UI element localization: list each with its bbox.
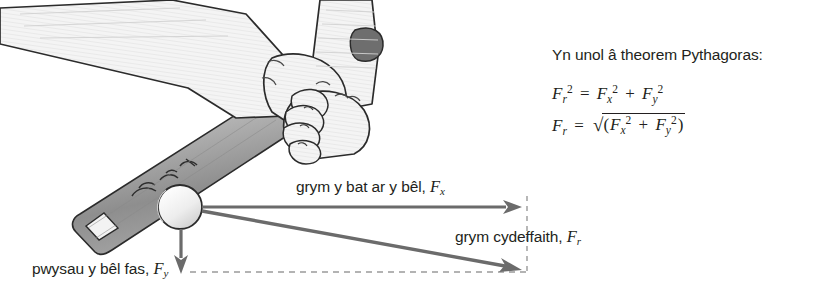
eq1-plus: +	[624, 84, 636, 103]
pythagoras-heading: Yn unol â theorem Pythagoras:	[552, 46, 763, 63]
label-fx-symbol: F	[430, 177, 440, 196]
eq2-term2-sup: 2	[671, 114, 677, 126]
eq2-open-paren: (	[602, 115, 610, 134]
label-fx-subscript: x	[440, 185, 445, 197]
label-fy-symbol: F	[153, 259, 163, 278]
label-fx-text: grym y bat ar y bêl,	[296, 178, 426, 195]
pythagoras-equation-1: Fr2 = Fx2 + Fy2	[552, 83, 663, 105]
eq2-close-paren: )	[677, 115, 685, 134]
eq1-term2-symbol: F	[642, 84, 652, 103]
arrow-weight-of-ball	[174, 229, 188, 274]
label-fr-symbol: F	[567, 227, 577, 246]
label-weight-of-ball: pwysau y bêl fas, Fy	[32, 260, 168, 279]
eq1-lhs-symbol: F	[552, 84, 562, 103]
eq2-equals: =	[573, 116, 585, 135]
eq1-term1-symbol: F	[597, 84, 607, 103]
label-fr-text: grym cydeffaith,	[455, 228, 563, 245]
label-resultant-force: grym cydeffaith, Fr	[455, 228, 581, 247]
eq2-term1-symbol: F	[610, 115, 620, 134]
pythagoras-equation-2: Fr = √(Fx2 + Fy2)	[552, 114, 685, 137]
force-diagram-figure: grym y bat ar y bêl, Fx grym cydeffaith,…	[0, 0, 826, 294]
eq2-plus: +	[638, 115, 650, 134]
eq1-term2-sup: 2	[658, 83, 664, 95]
label-fr-subscript: r	[577, 235, 581, 247]
square-root-group: √(Fx2 + Fy2)	[591, 114, 685, 137]
eq2-lhs-symbol: F	[552, 116, 562, 135]
eq1-equals: =	[579, 84, 591, 103]
label-fy-subscript: y	[163, 267, 168, 279]
radical-body: (Fx2 + Fy2)	[602, 113, 685, 136]
label-fy-text: pwysau y bêl fas,	[32, 260, 149, 277]
eq2-term2-symbol: F	[655, 115, 665, 134]
label-force-bat-on-ball: grym y bat ar y bêl, Fx	[296, 178, 445, 197]
force-vectors-layer	[0, 0, 826, 294]
eq1-lhs-sup: 2	[567, 83, 573, 95]
arrow-force-bat-on-ball	[202, 200, 522, 214]
